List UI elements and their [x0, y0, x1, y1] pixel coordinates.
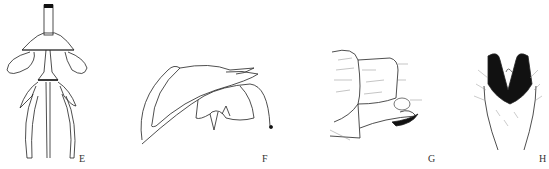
panel-label-e: E [79, 154, 85, 164]
panel-f: F [140, 0, 300, 169]
panel-label-g: G [428, 154, 435, 164]
drawing-h [440, 0, 549, 169]
panel-g: G [300, 0, 440, 169]
panel-label-h: H [539, 154, 546, 164]
drawing-e [0, 0, 140, 169]
panel-e: E [0, 0, 140, 169]
drawing-f [140, 0, 300, 169]
drawing-g [300, 0, 440, 169]
panel-h: H [440, 0, 549, 169]
panel-label-f: F [262, 154, 268, 164]
